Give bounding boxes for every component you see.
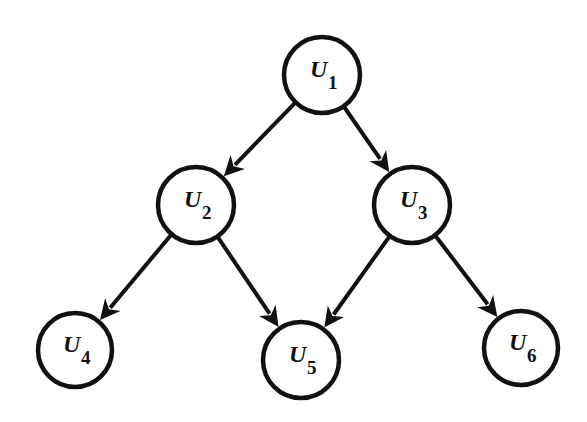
arrowhead-icon [324,305,344,327]
edge-u3-u6 [435,235,488,304]
node-u1: U1 [284,37,360,113]
node-label: U [184,186,203,212]
node-subscript: 5 [307,357,317,378]
node-label: U [400,186,419,212]
arrowhead-icon [259,305,278,327]
edge-u2-u5 [217,236,269,313]
edge-u2-u4 [110,234,171,308]
graph-canvas: U1U2U3U4U5U6 [0,0,587,422]
node-u2: U2 [158,167,234,243]
node-label: U [310,56,329,82]
node-subscript: 3 [418,202,428,223]
edge-u1-u3 [344,106,380,159]
node-u3: U3 [374,167,450,243]
node-subscript: 4 [81,347,91,368]
node-u6: U6 [484,311,558,385]
node-label: U [63,331,82,357]
node-subscript: 6 [527,345,537,366]
nodes-layer: U1U2U3U4U5U6 [38,37,558,398]
node-subscript: 2 [202,202,212,223]
node-subscript: 1 [328,72,338,93]
node-u4: U4 [38,313,112,387]
node-label: U [509,329,528,355]
edge-u3-u5 [334,236,390,315]
node-label: U [289,341,308,367]
edge-u1-u2 [235,102,296,165]
node-u5: U5 [263,322,339,398]
arrowhead-icon [370,150,390,172]
arrowhead-icon [477,295,497,317]
